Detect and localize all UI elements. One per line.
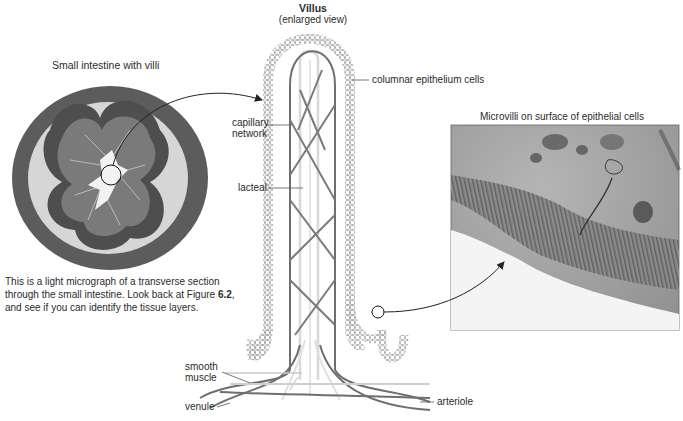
label-arteriole: arteriole xyxy=(437,396,473,408)
label-capillary-network-1: capillary xyxy=(232,117,269,129)
label-capillary-network-2: network xyxy=(232,128,267,140)
figure-reference: 6.2 xyxy=(218,289,232,300)
diagram-canvas xyxy=(0,0,683,421)
villus-subtitle: (enlarged view) xyxy=(263,14,363,25)
microvilli-title: Microvilli on surface of epithelial cell… xyxy=(480,111,644,123)
label-smooth-muscle-1: smooth xyxy=(185,361,218,373)
small-intestine-micrograph xyxy=(12,86,208,270)
microvilli-micrograph xyxy=(451,125,679,330)
villus-title: Villus xyxy=(283,2,343,14)
left-panel-caption: This is a light micrograph of a transver… xyxy=(5,275,235,314)
caption-text-1: This is a light micrograph of a transver… xyxy=(5,276,220,300)
label-lacteal: lacteal xyxy=(238,182,267,194)
label-venule: venule xyxy=(185,401,214,413)
label-smooth-muscle-2: muscle xyxy=(185,372,217,384)
label-columnar-epithelium: columnar epithelium cells xyxy=(372,74,484,86)
